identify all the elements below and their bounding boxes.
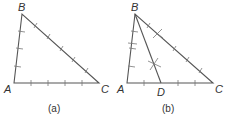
vertex-label-c-b: C [215, 83, 223, 95]
vertex-label-b-b: B [131, 1, 138, 13]
vertex-label-a-b: A [116, 83, 124, 95]
caption-a: (a) [48, 103, 60, 114]
vertex-label-c-a: C [101, 83, 109, 95]
figure-a: B A C (a) [3, 1, 109, 114]
segment-bd [135, 14, 161, 83]
figure-b: B A D C (b) [116, 1, 223, 114]
vertex-label-a-a: A [3, 83, 11, 95]
diagram-canvas: B A C (a) [0, 0, 226, 123]
caption-b: (b) [162, 103, 174, 114]
vertex-label-b-a: B [18, 1, 25, 13]
vertex-label-d-b: D [157, 86, 165, 98]
triangle-abc-b [127, 14, 213, 83]
triangle-abc-a [14, 14, 99, 83]
bisector-mark-bd [148, 58, 161, 70]
